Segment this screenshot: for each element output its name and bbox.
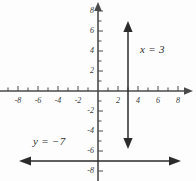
- y-tick-label: -8: [78, 167, 94, 175]
- y-axis-arrowhead-up: [94, 2, 102, 11]
- y-tick-label: 8: [78, 7, 94, 15]
- coordinate-plane-figure: -8 -6 -4 -2 2 4 6 8 8 6 4 2 -2 -4 -6 -8 …: [0, 0, 196, 181]
- x-tick-label: 6: [156, 97, 160, 105]
- plotted-line-x-equals-3: [123, 21, 132, 149]
- plot-canvas: [0, 0, 196, 181]
- x-axis-arrowhead-right: [184, 87, 193, 95]
- y-tick-label: 2: [78, 67, 94, 75]
- x-tick-label: -6: [35, 97, 42, 105]
- y-tick-label: 6: [78, 27, 94, 35]
- annotation-label-x-equals-3: x = 3: [140, 44, 165, 55]
- plotted-line-y-equals-minus-7: [19, 156, 181, 165]
- x-tick-label: -8: [15, 97, 22, 105]
- horizontal-line-arrowhead-left: [19, 156, 31, 165]
- y-tick-label: -4: [78, 127, 94, 135]
- x-tick-label: -4: [55, 97, 62, 105]
- y-tick-label: 4: [78, 47, 94, 55]
- x-tick-label: 4: [136, 97, 140, 105]
- y-tick-label: -2: [78, 107, 94, 115]
- x-axis: [0, 87, 193, 95]
- vertical-line-arrowhead-down: [123, 138, 132, 149]
- x-tick-label: -2: [75, 97, 82, 105]
- x-tick-label: 8: [176, 97, 180, 105]
- vertical-line-arrowhead-up: [123, 21, 132, 32]
- x-tick-label: 2: [116, 97, 120, 105]
- horizontal-line-arrowhead-right: [169, 156, 181, 165]
- annotation-label-y-equals-minus-7: y = −7: [33, 136, 66, 147]
- y-tick-label: -6: [78, 147, 94, 155]
